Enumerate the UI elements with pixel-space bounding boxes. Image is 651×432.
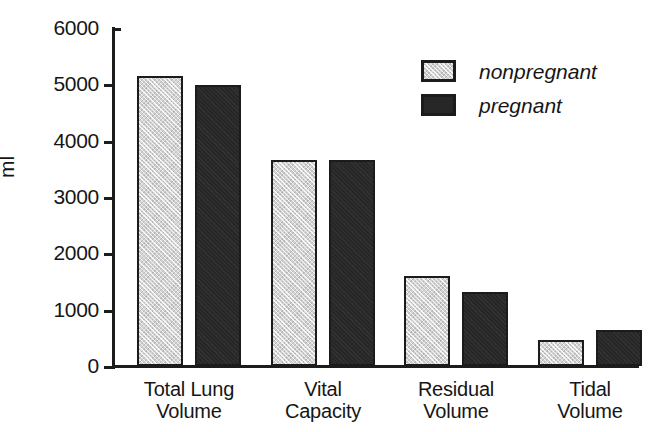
legend-label-pregnant: pregnant — [479, 95, 562, 116]
bar-pregnant-1 — [329, 160, 375, 366]
y-tick-label: 6000 — [15, 17, 99, 38]
y-tick-label: 4000 — [15, 130, 99, 151]
legend-swatch-pregnant — [421, 94, 456, 116]
y-tick-label: 5000 — [15, 73, 99, 94]
bar-nonpregnant-3 — [538, 340, 584, 366]
y-tick-mark — [104, 310, 115, 313]
y-tick-mark — [104, 366, 115, 369]
y-tick-label: 1000 — [15, 299, 99, 320]
legend: nonpregnant pregnant — [421, 54, 597, 122]
y-tick-mark — [104, 253, 115, 256]
bar-pregnant-3 — [596, 330, 642, 366]
legend-item-pregnant: pregnant — [421, 88, 597, 122]
legend-label-nonpregnant: nonpregnant — [479, 61, 597, 82]
bar-nonpregnant-2 — [404, 276, 450, 366]
legend-swatch-nonpregnant — [421, 60, 456, 82]
y-axis-title: ml — [0, 156, 17, 178]
y-tick-label: 2000 — [15, 242, 99, 263]
y-tick-mark — [104, 84, 115, 87]
y-tick-mark — [104, 197, 115, 200]
bar-nonpregnant-1 — [271, 160, 317, 366]
y-tick-label: 3000 — [15, 186, 99, 207]
bar-nonpregnant-0 — [137, 76, 183, 366]
bar-chart-figure: ml 6000500040003000200010000 Total Lung … — [0, 0, 651, 432]
legend-item-nonpregnant: nonpregnant — [421, 54, 597, 88]
y-tick-mark — [104, 141, 115, 144]
bar-pregnant-2 — [462, 292, 508, 366]
bar-pregnant-0 — [195, 85, 241, 366]
category-label-3: Tidal Volume — [500, 378, 651, 422]
y-tick-label: 0 — [15, 355, 99, 376]
y-tick-mark — [112, 28, 121, 31]
